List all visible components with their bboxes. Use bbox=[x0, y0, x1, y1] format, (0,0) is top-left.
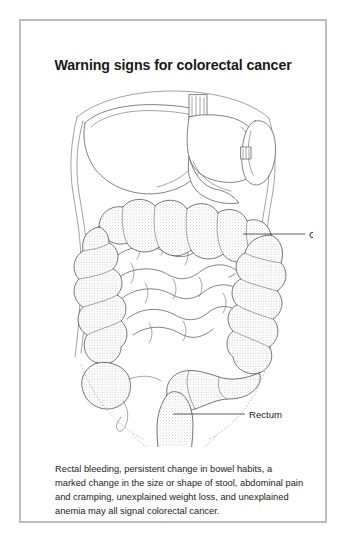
info-card: Warning signs for colorectal cancer bbox=[19, 19, 327, 523]
page-title: Warning signs for colorectal cancer bbox=[21, 57, 325, 73]
anatomy-figure: Colon Rectum bbox=[37, 87, 313, 447]
screenshot-root: Warning signs for colorectal cancer bbox=[0, 0, 350, 549]
label-rectum-text: Rectum bbox=[249, 409, 282, 420]
caption-text: Rectal bleeding, persistent change in bo… bbox=[55, 462, 305, 519]
cecum bbox=[82, 362, 131, 409]
liver bbox=[84, 105, 203, 194]
label-colon-text: Colon bbox=[309, 229, 313, 240]
